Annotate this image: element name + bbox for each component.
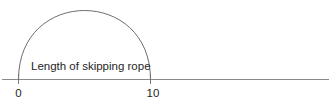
curve-annotation-label: Length of skipping rope [31, 60, 151, 72]
chart-plot-area: 0 10 Length of skipping rope [0, 0, 335, 107]
x-tick-label-10: 10 [147, 87, 160, 99]
x-tick-label-0: 0 [15, 87, 21, 99]
chart-figure: 0 10 Length of skipping rope [0, 0, 335, 107]
